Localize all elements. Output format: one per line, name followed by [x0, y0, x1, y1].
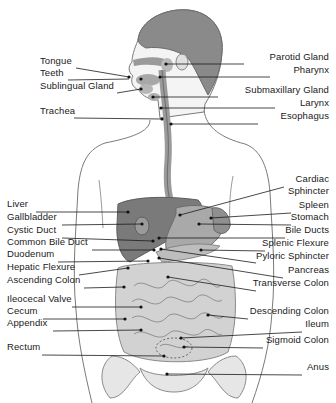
label-anus: Anus [307, 361, 329, 372]
pointer-dot [158, 75, 161, 78]
pointer-dot [152, 248, 155, 251]
label-cardiac: Cardiac [296, 173, 329, 184]
label-liver: Liver [7, 198, 28, 209]
pointer-dot [122, 285, 125, 288]
label-bile-ducts: Bile Ducts [285, 224, 329, 235]
label-duodenum: Duodenum [7, 248, 54, 259]
label-rectum: Rectum [7, 341, 40, 352]
label-parotid-gland: Parotid Gland [270, 51, 329, 62]
label-ascending-colon: Ascending Colon [7, 274, 80, 285]
label-descending-colon: Descending Colon [250, 305, 329, 316]
label-ileocecal-valve: Ileocecal Valve [7, 293, 72, 304]
pointer-dot [151, 239, 154, 242]
label-appendix: Appendix [7, 317, 47, 328]
pointer-dot [164, 62, 167, 65]
label-ileum: Ileum [305, 318, 329, 329]
label-splenic-flexure: Splenic Flexure [262, 237, 329, 248]
label-esophagus: Esophagus [281, 110, 329, 121]
label-pancreas: Pancreas [288, 264, 329, 275]
pointer-dot [206, 313, 209, 316]
pointer-dot [146, 259, 149, 262]
pointer-dot [159, 247, 162, 250]
label-trachea: Trachea [40, 105, 75, 116]
label-common-bile-duct: Common Bile Duct [7, 236, 88, 247]
label-sphincter: Sphincter [288, 185, 329, 196]
pointer-dot [199, 248, 202, 251]
leader-line [76, 68, 129, 77]
label-larynx: Larynx [300, 97, 329, 108]
pointer-dot [182, 345, 185, 348]
pointer-dot [123, 317, 126, 320]
label-sigmoid-colon: Sigmoid Colon [266, 334, 329, 345]
pointer-dot [151, 95, 154, 98]
pointer-dot [169, 122, 172, 125]
pointer-dot [157, 236, 160, 239]
pointer-dot [126, 210, 129, 213]
pointer-dot [159, 106, 162, 109]
label-cecum: Cecum [7, 305, 38, 316]
pointer-dot [162, 354, 165, 357]
label-gallbladder: Gallbladder [7, 211, 57, 222]
pointer-dot [140, 222, 143, 225]
pointer-dot [165, 372, 168, 375]
pointer-dot [139, 87, 142, 90]
pointer-dot [179, 336, 182, 339]
pointer-dot [127, 75, 130, 78]
pointer-dot [197, 222, 200, 225]
label-tongue: Tongue [40, 55, 72, 66]
pointer-dot [178, 213, 181, 216]
label-stomach: Stomach [291, 211, 329, 222]
label-pyloric-sphincter: Pyloric Sphincter [256, 250, 329, 261]
pelvis [102, 356, 246, 398]
pointer-dot [139, 328, 142, 331]
leader-line [74, 118, 162, 119]
pointer-dot [160, 117, 163, 120]
label-sublingual-gland: Sublingual Gland [40, 80, 114, 91]
pointer-dot [209, 216, 212, 219]
pointer-dot [139, 77, 142, 80]
label-submaxillary-gland: Submaxillary Gland [245, 84, 329, 95]
label-pharynx: Pharynx [293, 64, 329, 75]
spleen [212, 208, 230, 234]
label-teeth: Teeth [40, 67, 64, 78]
label-cystic-duct: Cystic Duct [7, 224, 56, 235]
pointer-dot [166, 275, 169, 278]
pointer-dot [157, 256, 160, 259]
pointer-dot [139, 305, 142, 308]
gallbladder [135, 217, 149, 235]
label-hepatic-flexure: Hepatic Flexure [7, 261, 75, 272]
label-transverse-colon: Transverse Colon [253, 277, 329, 288]
pointer-dot [126, 266, 129, 269]
label-spleen: Spleen [299, 199, 329, 210]
digestive-system-diagram: TongueTeethSublingual GlandTracheaLiverG… [0, 0, 336, 403]
leader-line [117, 89, 141, 93]
